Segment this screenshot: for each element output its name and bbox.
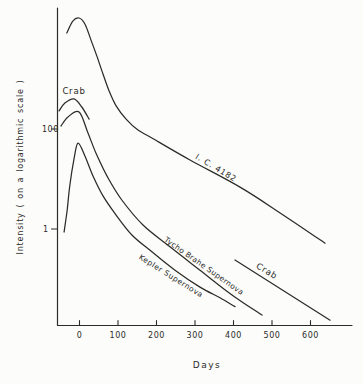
crab-late-decline bbox=[235, 260, 330, 320]
crab-early-light-curve bbox=[59, 99, 89, 119]
x-tick-label: 300 bbox=[180, 331, 210, 340]
x-axis-title: Days bbox=[193, 360, 221, 370]
axis-ticks bbox=[52, 129, 311, 326]
x-tick-label: 500 bbox=[257, 331, 287, 340]
x-tick-label: 0 bbox=[65, 331, 95, 340]
series-label-crab-early: Crab bbox=[62, 86, 85, 96]
x-tick-label: 400 bbox=[219, 331, 249, 340]
x-tick-label: 200 bbox=[142, 331, 172, 340]
ic-4182-light-curve bbox=[67, 18, 325, 243]
y-tick-label-100: 100 bbox=[42, 125, 59, 134]
y-tick-label-1: 1 bbox=[43, 225, 49, 234]
supernova-light-curves-figure: Intensity ( on a logarithmic scale ) Day… bbox=[0, 0, 363, 384]
x-tick-label: 100 bbox=[103, 331, 133, 340]
x-tick-label: 600 bbox=[296, 331, 326, 340]
plot-canvas bbox=[0, 0, 363, 384]
y-axis-title: Intensity ( on a logarithmic scale ) bbox=[16, 80, 25, 255]
